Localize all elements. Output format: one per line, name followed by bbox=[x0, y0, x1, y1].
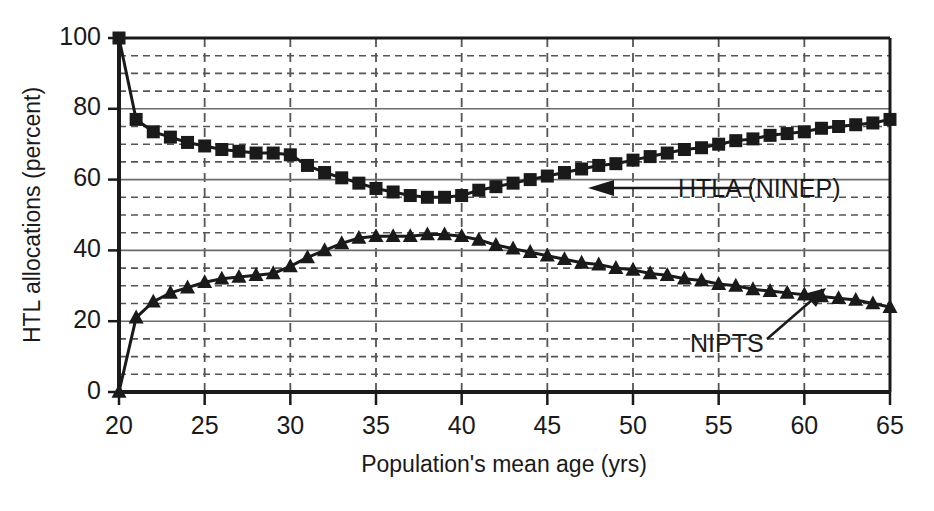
annotation-nipts-label: NIPTS bbox=[690, 329, 764, 357]
data-point-marker bbox=[558, 166, 571, 179]
y-tick-label: 60 bbox=[73, 163, 101, 191]
data-point-marker bbox=[267, 147, 280, 160]
data-point-marker bbox=[164, 131, 177, 144]
x-tick-label: 60 bbox=[790, 411, 818, 439]
data-point-marker bbox=[695, 141, 708, 154]
data-point-marker bbox=[644, 150, 657, 163]
y-axis-title: HTL allocations (percent) bbox=[19, 87, 45, 343]
data-point-marker bbox=[746, 132, 759, 145]
data-point-marker bbox=[541, 170, 554, 183]
x-tick-label: 40 bbox=[448, 411, 476, 439]
data-point-marker bbox=[712, 138, 725, 151]
y-tick-label: 100 bbox=[59, 22, 101, 50]
x-axis-title: Population's mean age (yrs) bbox=[361, 451, 647, 477]
chart-figure: 020406080100 20253035404550556065 HTLA (… bbox=[0, 0, 934, 511]
horizontal-minor-gridlines bbox=[119, 56, 890, 375]
y-tick-label: 80 bbox=[73, 92, 101, 120]
y-tick-label: 40 bbox=[73, 234, 101, 262]
data-point-marker bbox=[147, 125, 160, 138]
chart-canvas: 020406080100 20253035404550556065 HTLA (… bbox=[0, 0, 934, 511]
data-point-marker bbox=[609, 157, 622, 170]
y-tick-label: 0 bbox=[87, 376, 101, 404]
data-point-marker bbox=[404, 189, 417, 202]
data-point-marker bbox=[421, 191, 434, 204]
x-tick-label: 35 bbox=[362, 411, 390, 439]
data-point-marker bbox=[284, 148, 297, 161]
data-point-marker bbox=[370, 182, 383, 195]
data-point-marker bbox=[832, 120, 845, 133]
x-tick-label: 25 bbox=[191, 411, 219, 439]
x-tick-label: 30 bbox=[276, 411, 304, 439]
data-point-marker bbox=[318, 166, 331, 179]
x-tick-label: 45 bbox=[533, 411, 561, 439]
data-point-marker bbox=[181, 136, 194, 149]
data-point-marker bbox=[232, 145, 245, 158]
data-point-marker bbox=[472, 184, 485, 197]
data-point-marker bbox=[335, 171, 348, 184]
data-point-marker bbox=[849, 118, 862, 131]
data-point-marker bbox=[301, 159, 314, 172]
data-point-marker bbox=[798, 125, 811, 138]
data-point-marker bbox=[815, 122, 828, 135]
x-tick-label: 20 bbox=[105, 411, 133, 439]
data-point-marker bbox=[884, 113, 897, 126]
series-markers-nipts bbox=[112, 226, 898, 397]
annotation-htla-arrow-head bbox=[588, 180, 614, 196]
data-point-marker bbox=[781, 127, 794, 140]
y-axis-tick-labels: 020406080100 bbox=[59, 22, 101, 404]
x-tick-label: 65 bbox=[876, 411, 904, 439]
data-point-marker bbox=[215, 143, 228, 156]
data-point-marker bbox=[507, 177, 520, 190]
annotation-htla-label: HTLA (NINEP) bbox=[678, 174, 841, 202]
data-point-marker bbox=[455, 189, 468, 202]
data-point-marker bbox=[729, 134, 742, 147]
data-point-marker bbox=[387, 185, 400, 198]
data-point-marker bbox=[661, 147, 674, 160]
data-point-marker bbox=[438, 191, 451, 204]
data-point-marker bbox=[866, 116, 879, 129]
data-point-marker bbox=[678, 143, 691, 156]
data-point-marker bbox=[627, 154, 640, 167]
data-point-marker bbox=[489, 180, 502, 193]
data-point-marker bbox=[592, 159, 605, 172]
data-point-marker bbox=[524, 173, 537, 186]
x-axis-tick-labels: 20253035404550556065 bbox=[105, 411, 904, 439]
data-point-marker bbox=[130, 113, 143, 126]
series-line-nipts bbox=[119, 234, 890, 392]
data-point-marker bbox=[575, 162, 588, 175]
data-point-marker bbox=[764, 129, 777, 142]
data-point-marker bbox=[198, 139, 211, 152]
data-point-marker bbox=[113, 32, 126, 45]
annotation-nipts-arrow-shaft bbox=[767, 300, 812, 339]
data-point-marker bbox=[250, 147, 263, 160]
y-tick-label: 20 bbox=[73, 305, 101, 333]
x-tick-label: 50 bbox=[619, 411, 647, 439]
x-tick-label: 55 bbox=[705, 411, 733, 439]
data-point-marker bbox=[352, 177, 365, 190]
